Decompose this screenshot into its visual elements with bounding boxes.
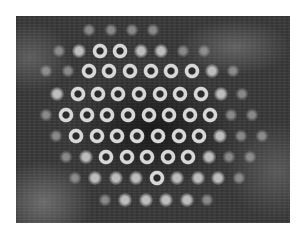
lattice-spot [40,109,53,122]
lattice-spot [203,108,218,123]
lattice-spot [105,24,118,37]
lattice-spot [50,87,64,101]
lattice-spot [130,129,145,144]
lattice-spot [223,151,236,164]
lattice-spot [79,150,93,164]
lattice-spot [191,171,205,185]
lattice-spot [82,64,97,79]
lattice-spot [153,87,168,102]
micrograph-image [16,16,290,223]
lattice-spot [194,87,209,102]
lattice-spot [102,64,117,79]
lattice-spot [132,87,147,102]
lattice-spot [71,87,86,102]
lattice-spot [177,45,190,58]
lattice-spot [205,64,219,78]
lattice-spot [173,87,188,102]
lattice-spot [154,44,168,58]
lattice-spot [120,150,135,165]
lattice-spot [185,64,200,79]
lattice-spot [59,108,74,123]
lattice-spot [53,45,66,58]
lattice-spot [192,129,207,144]
lattice-spot [202,150,216,164]
lattice-spot [181,150,196,165]
lattice-spot [83,24,96,37]
lattice-spot [88,171,102,185]
lattice-spot [164,64,179,79]
lattice-spot [147,24,160,37]
lattice-spot [109,171,123,185]
lattice-spot [69,172,82,185]
lattice-spot [91,87,106,102]
lattice-spot [121,108,136,123]
lattice-spot [50,130,63,143]
lattice-spot [227,65,240,78]
lattice-spot [213,129,227,143]
lattice-spot [246,109,259,122]
lattice-spot [60,151,73,164]
lattice-spot [99,194,112,207]
lattice-spot [93,44,108,59]
lattice-spot [225,109,238,122]
lattice-spot [142,108,157,123]
lattice-spot [159,193,173,207]
lattice-spot [244,151,257,164]
lattice-spot [170,171,184,185]
lattice-spot [69,129,84,144]
lattice-spot [129,171,143,185]
lattice-spot [139,193,153,207]
lattice-spot [99,150,114,165]
lattice-spot [172,129,187,144]
lattice-spot [180,193,194,207]
lattice-spot [233,172,246,185]
lattice-spot [140,150,155,165]
lattice-spot [123,64,138,79]
lattice-spot [236,88,249,101]
lattice-spot [100,108,115,123]
lattice-spot [183,108,198,123]
lattice-spot [256,130,269,143]
lattice-spot [90,129,105,144]
lattice-spot [113,44,128,59]
lattice-spot [162,108,177,123]
lattice-spot [235,130,248,143]
lattice-spot [144,64,159,79]
lattice-spot [126,24,139,37]
lattice-spot [211,171,225,185]
lattice-spot [134,44,148,58]
lattice-spot [80,108,95,123]
lattice-spot [72,44,86,58]
lattice-spot [110,129,125,144]
lattice-spot [111,87,126,102]
lattice-spot [118,193,132,207]
lattice-spot [214,87,228,101]
lattice-spot [151,129,166,144]
lattice-spot [150,171,165,186]
lattice-spot [198,45,211,58]
lattice-spot [40,65,53,78]
lattice-spot [161,150,176,165]
lattice-spot [201,194,214,207]
lattice-spot [62,65,75,78]
